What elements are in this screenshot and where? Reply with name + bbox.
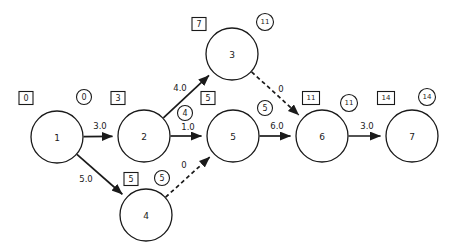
edge-weight-n5-n6: 6.0 — [270, 121, 284, 131]
earliest-time-tag-n1: 0 — [19, 92, 33, 105]
tag-value: 11 — [345, 99, 354, 107]
network-diagram-canvas: 1234567 0034711555511111414 3.05.04.01.0… — [0, 0, 455, 252]
node-label-2: 2 — [141, 132, 147, 142]
node-5[interactable]: 5 — [207, 110, 259, 162]
tag-value: 11 — [307, 94, 316, 102]
node-7[interactable]: 7 — [386, 110, 438, 162]
tag-value: 0 — [23, 94, 28, 103]
tag-value: 5 — [128, 175, 133, 184]
latest-time-tag-n6: 11 — [341, 95, 358, 112]
earliest-time-tag-n2: 3 — [111, 92, 125, 105]
tag-value: 14 — [382, 94, 391, 102]
latest-time-tag-n7: 14 — [419, 89, 436, 106]
latest-time-tag-n1: 0 — [77, 90, 92, 105]
node-2[interactable]: 2 — [118, 110, 170, 162]
latest-time-tag-n2: 4 — [178, 106, 193, 121]
edge-weight-n2-n5: 1.0 — [181, 122, 195, 132]
node-label-3: 3 — [229, 50, 235, 60]
tag-value: 4 — [182, 109, 187, 118]
node-3[interactable]: 3 — [206, 28, 258, 80]
tag-value: 5 — [205, 94, 210, 103]
nodes-layer: 1234567 — [31, 28, 438, 241]
tag-value: 5 — [262, 104, 267, 113]
tag-value: 3 — [115, 94, 120, 103]
tag-value: 14 — [423, 93, 432, 101]
tag-value: 7 — [196, 20, 201, 29]
latest-time-tag-n3: 11 — [257, 14, 274, 31]
edge-n4-n5 — [166, 157, 210, 197]
node-6[interactable]: 6 — [296, 110, 348, 162]
edge-weight-n2-n3: 4.0 — [173, 83, 187, 93]
earliest-time-tag-n4: 5 — [124, 173, 138, 186]
earliest-time-tag-n3: 7 — [192, 18, 206, 31]
node-label-7: 7 — [409, 132, 415, 142]
node-label-6: 6 — [319, 132, 325, 142]
earliest-time-tag-n6: 11 — [303, 92, 320, 105]
earliest-time-tag-n7: 14 — [378, 92, 395, 105]
tag-value: 11 — [261, 18, 270, 26]
node-label-4: 4 — [143, 211, 149, 221]
earliest-time-tag-n5: 5 — [201, 92, 215, 105]
tag-value: 0 — [81, 93, 86, 102]
node-1[interactable]: 1 — [31, 111, 83, 163]
latest-time-tag-n4: 5 — [155, 171, 170, 186]
network-diagram-svg: 1234567 0034711555511111414 3.05.04.01.0… — [0, 0, 455, 252]
edge-weight-n4-n5: 0 — [181, 160, 186, 170]
latest-time-tag-n5: 5 — [258, 101, 273, 116]
edge-weight-n6-n7: 3.0 — [360, 121, 374, 131]
tag-value: 5 — [159, 174, 164, 183]
node-label-1: 1 — [54, 133, 60, 143]
edge-weight-n3-n6: 0 — [278, 84, 283, 94]
edge-weight-n1-n2: 3.0 — [93, 121, 107, 131]
node-label-5: 5 — [230, 132, 236, 142]
edge-weight-n1-n4: 5.0 — [79, 174, 93, 184]
node-4[interactable]: 4 — [120, 189, 172, 241]
